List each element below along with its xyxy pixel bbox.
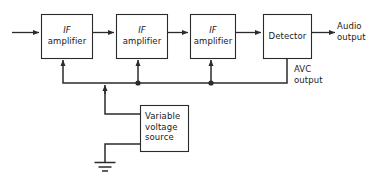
junction-dot-if3 (208, 80, 213, 85)
avc-output-line1: AVC (294, 64, 311, 74)
wire-avc-bus (63, 59, 287, 84)
block-if-amplifier-3 (191, 15, 236, 59)
audio-output-line2: output (337, 32, 366, 42)
ground-icon (95, 163, 116, 172)
diagram-canvas (0, 0, 376, 184)
audio-output-line1: Audio (337, 21, 362, 31)
block-variable-voltage-source (141, 106, 189, 152)
audio-output-label: Audio output (337, 21, 366, 42)
avc-output-label: AVC output (294, 64, 323, 85)
block-detector (264, 15, 312, 59)
wire-source-to-bus (105, 90, 140, 114)
block-if-amplifier-1 (42, 15, 93, 59)
wire-source-to-ground (105, 144, 140, 162)
avc-output-line2: output (294, 75, 323, 85)
junction-dot-if2 (135, 80, 140, 85)
block-diagram: IF amplifier IF amplifier IF amplifier D… (0, 0, 376, 184)
block-if-amplifier-2 (117, 15, 168, 59)
